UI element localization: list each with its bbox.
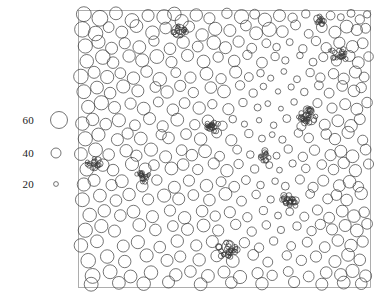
plot-canvas	[0, 0, 386, 298]
bubble-chart-figure: 60 40 20	[0, 0, 386, 298]
size-legend-label-40: 40	[4, 147, 34, 159]
size-legend-label-60: 60	[4, 114, 34, 126]
size-legend-label-20: 20	[4, 178, 34, 190]
